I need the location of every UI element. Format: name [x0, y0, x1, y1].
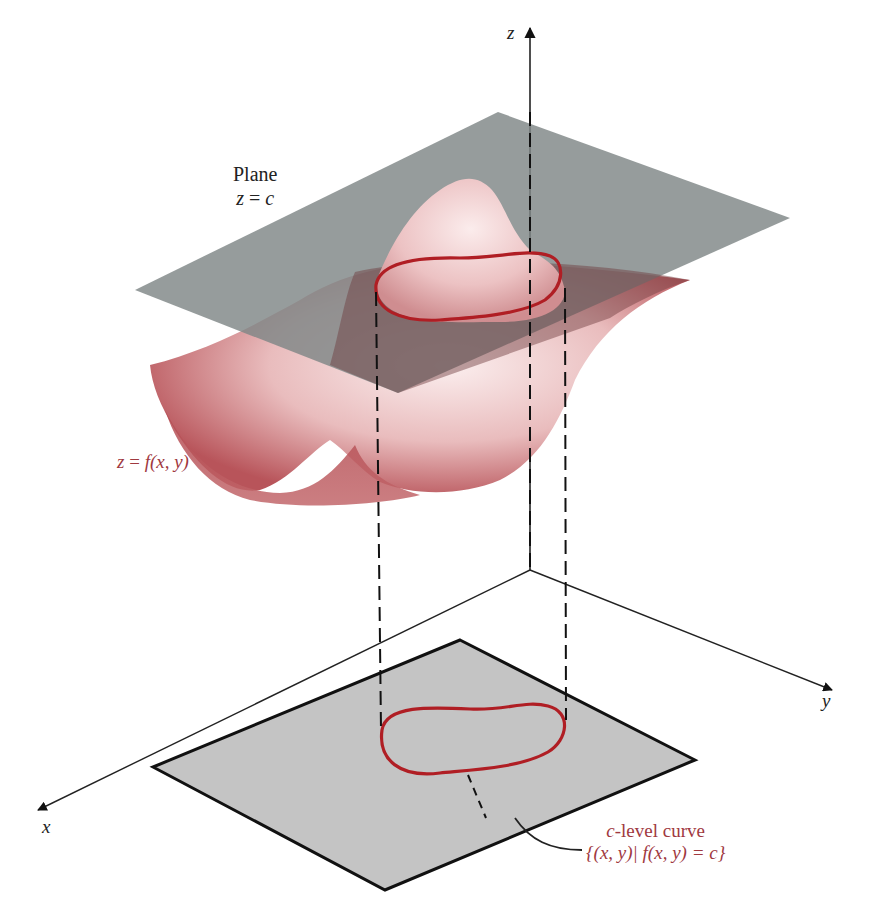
plane-label: Plane z = c: [233, 162, 277, 210]
level-curve-title: c-level curve: [586, 820, 725, 842]
plane-label-title: Plane: [233, 162, 277, 186]
z-axis-label: z: [507, 22, 514, 44]
level-curve-set: {(x, y)| f(x, y) = c}: [586, 842, 725, 864]
x-axis-label: x: [42, 816, 50, 838]
surface-label: z = f(x, y): [117, 451, 189, 473]
level-curve-label: c-level curve {(x, y)| f(x, y) = c}: [586, 820, 725, 864]
plane-label-equation: z = c: [233, 186, 277, 210]
y-axis: [530, 570, 832, 690]
y-axis-label: y: [822, 690, 830, 712]
